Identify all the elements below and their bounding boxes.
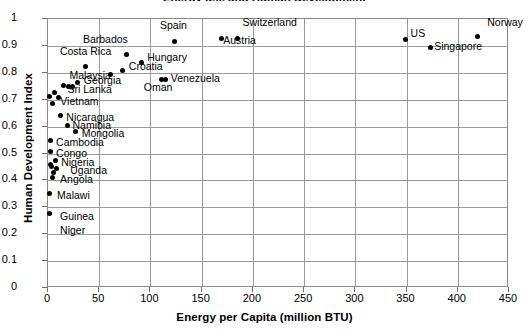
y-tick-label: 0.4 — [0, 173, 17, 184]
data-point-label: Switzerland — [243, 17, 297, 28]
data-point — [53, 158, 58, 163]
data-point — [65, 123, 70, 128]
data-point — [52, 90, 57, 95]
data-point-label: Angola — [60, 174, 93, 185]
y-gridline — [48, 100, 507, 101]
data-point-label: Barbados — [83, 34, 128, 45]
x-gridline — [407, 19, 408, 286]
data-point — [50, 101, 55, 106]
y-tick-label: 0.2 — [0, 227, 17, 238]
y-tick-mark — [42, 126, 47, 127]
data-point-label: Oman — [144, 82, 173, 93]
y-gridline — [48, 154, 507, 155]
y-tick-mark — [42, 18, 47, 19]
y-gridline — [48, 261, 507, 262]
x-axis-title: Energy per Capita (million BTU) — [0, 311, 529, 323]
data-point-label: Costa Rica — [60, 46, 111, 57]
data-point-label: Sri Lanka — [68, 84, 112, 95]
y-tick-label: 0 — [0, 281, 17, 292]
y-tick-label: 0.6 — [0, 120, 17, 131]
x-gridline — [99, 19, 100, 286]
y-tick-label: 1 — [0, 12, 17, 23]
y-gridline — [48, 207, 507, 208]
data-point — [48, 162, 53, 167]
y-tick-mark — [42, 45, 47, 46]
y-tick-mark — [42, 260, 47, 261]
data-point — [428, 45, 433, 50]
x-tick-label: 100 — [129, 292, 169, 304]
x-tick-label: 200 — [232, 292, 272, 304]
data-point-label: Venezuela — [171, 73, 220, 84]
chart-title: Energy use and Human Development — [0, 0, 529, 1]
x-tick-label: 50 — [78, 292, 118, 304]
x-tick-label: 300 — [334, 292, 374, 304]
scatter-chart: Energy use and Human Development 0501001… — [0, 0, 529, 334]
data-point-label: Niger — [60, 225, 85, 236]
y-tick-label: 0.7 — [0, 93, 17, 104]
x-gridline — [355, 19, 356, 286]
y-tick-mark — [42, 287, 47, 288]
data-point-label: Spain — [160, 20, 187, 31]
x-tick-label: 400 — [437, 292, 477, 304]
y-tick-label: 0.9 — [0, 39, 17, 50]
y-tick-mark — [42, 233, 47, 234]
data-point — [47, 211, 52, 216]
x-gridline — [458, 19, 459, 286]
data-point-label: Guinea — [60, 211, 94, 222]
y-tick-mark — [42, 206, 47, 207]
data-point-label: Vietnam — [60, 96, 98, 107]
x-gridline — [253, 19, 254, 286]
y-tick-label: 0.5 — [0, 147, 17, 158]
y-gridline — [48, 234, 507, 235]
x-gridline — [304, 19, 305, 286]
data-point — [50, 175, 55, 180]
x-tick-label: 250 — [283, 292, 323, 304]
data-point-label: Malawi — [57, 190, 90, 201]
y-gridline — [48, 180, 507, 181]
y-axis-title: Human Development Index — [22, 48, 34, 248]
data-point-label: Norway — [487, 17, 523, 28]
y-tick-mark — [42, 179, 47, 180]
data-point — [172, 39, 177, 44]
y-tick-mark — [42, 153, 47, 154]
y-tick-label: 0.1 — [0, 254, 17, 265]
data-point-label: Singapore — [434, 41, 482, 52]
y-tick-label: 0.8 — [0, 66, 17, 77]
data-point-label: Austria — [223, 35, 256, 46]
plot-area — [47, 18, 508, 287]
y-tick-label: 0.3 — [0, 200, 17, 211]
x-tick-label: 150 — [181, 292, 221, 304]
data-point-label: Croatia — [129, 61, 163, 72]
x-gridline — [202, 19, 203, 286]
x-tick-label: 350 — [386, 292, 426, 304]
y-tick-mark — [42, 72, 47, 73]
data-point — [47, 94, 52, 99]
x-tick-label: 450 — [488, 292, 528, 304]
data-point — [403, 37, 408, 42]
data-point — [54, 166, 59, 171]
x-tick-label: 0 — [27, 292, 67, 304]
data-point-label: US — [411, 28, 426, 39]
y-tick-mark — [42, 99, 47, 100]
